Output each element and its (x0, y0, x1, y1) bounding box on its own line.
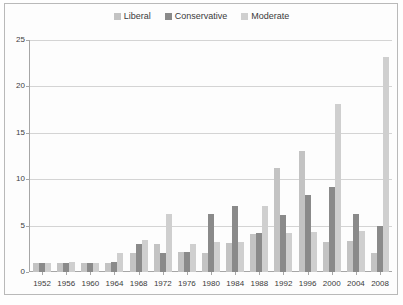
x-axis-tick-label: 1996 (296, 279, 320, 288)
y-axis-tick-mark (26, 226, 29, 227)
x-axis-tick-mark (211, 272, 212, 275)
bars-layer (30, 40, 392, 272)
x-axis-tick-mark (259, 272, 260, 275)
x-axis-tick-label: 1968 (127, 279, 151, 288)
x-axis-tick-mark (66, 272, 67, 275)
bar-moderate-1988 (262, 206, 268, 272)
x-axis-tick-mark (163, 272, 164, 275)
legend-label-liberal: Liberal (124, 12, 151, 21)
bar-group (344, 40, 368, 272)
x-axis-tick-cell (54, 272, 78, 276)
bar-group (175, 40, 199, 272)
bar-group (247, 40, 271, 272)
y-axis-tick-label: 10 (16, 175, 25, 183)
y-axis-tick-label: 25 (16, 36, 25, 44)
bar-group (368, 40, 392, 272)
x-axis-tick-cell (296, 272, 320, 276)
chart-container: Liberal Conservative Moderate 0510152025… (0, 0, 403, 305)
x-axis-tick-cell (368, 272, 392, 276)
x-axis-tick-cell (271, 272, 295, 276)
x-axis-tick-cell (344, 272, 368, 276)
bar-group (271, 40, 295, 272)
x-axis-tick-cell (127, 272, 151, 276)
legend-swatch-liberal (114, 13, 121, 20)
x-axis-tick-mark (380, 272, 381, 275)
y-axis-tick-label: 20 (16, 82, 25, 90)
legend-entry-moderate: Moderate (241, 12, 289, 21)
x-axis-tick-label: 1992 (271, 279, 295, 288)
y-axis-tick-mark (26, 86, 29, 87)
x-axis-tick-cell (320, 272, 344, 276)
x-axis-tick-label: 2008 (368, 279, 392, 288)
y-axis-tick-mark (26, 179, 29, 180)
x-axis-tick-label: 1988 (247, 279, 271, 288)
x-axis-tick-label: 2004 (344, 279, 368, 288)
x-axis-tick-mark (235, 272, 236, 275)
x-axis-tick-cell (102, 272, 126, 276)
bar-moderate-1976 (190, 244, 196, 272)
x-axis-tick-mark (332, 272, 333, 275)
x-axis-tick-mark (308, 272, 309, 275)
bar-moderate-1992 (286, 233, 292, 272)
bar-group (320, 40, 344, 272)
x-axis-tick-mark (139, 272, 140, 275)
x-axis-tick-label: 1960 (78, 279, 102, 288)
x-axis-tick-label: 1964 (102, 279, 126, 288)
bar-group (199, 40, 223, 272)
legend-entry-liberal: Liberal (114, 12, 151, 21)
bar-moderate-1996 (311, 232, 317, 272)
bar-moderate-1968 (142, 240, 148, 272)
legend-label-conservative: Conservative (175, 12, 228, 21)
legend-swatch-moderate (241, 13, 248, 20)
x-axis-ticks (30, 272, 392, 276)
x-axis-tick-mark (42, 272, 43, 275)
x-axis-tick-cell (151, 272, 175, 276)
bar-group (151, 40, 175, 272)
legend-label-moderate: Moderate (251, 12, 289, 21)
bar-moderate-1964 (117, 253, 123, 272)
bar-group (30, 40, 54, 272)
bar-group (54, 40, 78, 272)
x-axis-labels: 1952195619601964196819721976198019841988… (30, 279, 392, 288)
bar-moderate-2004 (359, 231, 365, 272)
x-axis-tick-label: 1956 (54, 279, 78, 288)
x-axis-tick-mark (356, 272, 357, 275)
y-axis-labels: 0510152025 (6, 40, 25, 272)
y-axis-tick-label: 5 (21, 222, 25, 230)
x-axis-tick-label: 1984 (223, 279, 247, 288)
bar-moderate-2008 (383, 57, 389, 272)
bar-moderate-1984 (238, 242, 244, 272)
x-axis-tick-mark (114, 272, 115, 275)
x-axis-tick-label: 1972 (151, 279, 175, 288)
bar-group (223, 40, 247, 272)
bar-group (127, 40, 151, 272)
x-axis-tick-cell (78, 272, 102, 276)
y-axis-tick-mark (26, 133, 29, 134)
x-axis-tick-cell (175, 272, 199, 276)
bar-group (296, 40, 320, 272)
chart-legend: Liberal Conservative Moderate (0, 12, 403, 21)
bar-moderate-1956 (69, 262, 75, 272)
bar-moderate-1972 (166, 214, 172, 272)
x-axis-tick-label: 1976 (175, 279, 199, 288)
bar-moderate-1980 (214, 242, 220, 272)
x-axis-tick-cell (30, 272, 54, 276)
x-axis-tick-label: 1980 (199, 279, 223, 288)
x-axis-tick-label: 2000 (320, 279, 344, 288)
y-axis-tick-label: 15 (16, 129, 25, 137)
y-axis-tick-mark (26, 272, 29, 273)
legend-entry-conservative: Conservative (165, 12, 228, 21)
bar-group (102, 40, 126, 272)
y-axis-tick-label: 0 (21, 268, 25, 276)
x-axis-tick-mark (187, 272, 188, 275)
x-axis-tick-cell (199, 272, 223, 276)
x-axis-tick-cell (223, 272, 247, 276)
legend-swatch-conservative (165, 13, 172, 20)
bar-group (78, 40, 102, 272)
bar-moderate-1952 (45, 263, 51, 272)
y-axis-tick-mark (26, 40, 29, 41)
bar-moderate-2000 (335, 104, 341, 272)
x-axis-tick-label: 1952 (30, 279, 54, 288)
bar-moderate-1960 (93, 263, 99, 272)
x-axis-tick-mark (283, 272, 284, 275)
